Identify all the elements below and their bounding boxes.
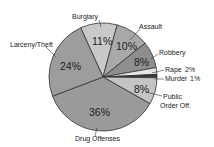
robbery-pct: 8% [134,56,149,68]
rape-label: Rape [165,66,182,74]
drug-pct: 36% [89,106,110,118]
rape-pct: 2% [185,66,195,73]
murder-label: Murder [165,75,188,82]
pie-chart: 11% 10% 8% 8% 36% 24% Burglary Assault R… [0,0,214,147]
public-order-label-line2: Order Off. [160,102,191,109]
assault-pct: 10% [116,40,137,52]
public-order-label-line1: Public [163,93,183,100]
public-pct: 8% [134,83,149,95]
drug-label: Drug Offenses [75,135,121,143]
larceny-label: Larceny/Theft [10,41,53,49]
larceny-pct: 24% [60,60,81,72]
assault-label: Assault [139,23,162,30]
robbery-label: Robbery [159,49,186,57]
burglary-label: Burglary [72,13,99,21]
burglary-pct: 11% [92,35,112,47]
murder-pct: 1% [190,75,200,82]
